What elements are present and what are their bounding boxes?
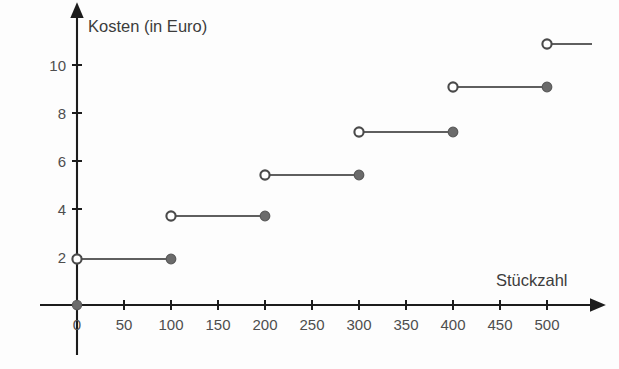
- step-3-open-point: [260, 170, 269, 179]
- y-tick-label-6: 6: [44, 154, 66, 169]
- step-1-closed-point: [166, 254, 176, 264]
- step-6-open-point: [542, 39, 551, 48]
- y-tick-label-4: 4: [44, 202, 66, 217]
- x-axis-title: Stückzahl: [496, 272, 568, 289]
- step-series: [77, 44, 592, 259]
- step-5-open-point: [448, 82, 457, 91]
- x-tick-label-500: 500: [534, 317, 559, 332]
- x-tick-label-100: 100: [158, 317, 183, 332]
- x-tick-label-400: 400: [440, 317, 465, 332]
- x-tick-label-50: 50: [116, 317, 133, 332]
- step-3-closed-point: [354, 170, 364, 180]
- step-4-closed-point: [448, 127, 458, 137]
- x-tick-label-250: 250: [299, 317, 324, 332]
- chart-canvas: [0, 0, 619, 369]
- step-1-open-point: [72, 254, 81, 263]
- y-tick-label-10: 10: [34, 58, 66, 73]
- step-2-closed-point: [260, 211, 270, 221]
- step-2-open-point: [166, 211, 175, 220]
- x-tick-label-200: 200: [252, 317, 277, 332]
- step-function-chart: Kosten (in Euro) Stückzahl 0 50 100 150 …: [0, 0, 619, 369]
- x-tick-label-300: 300: [346, 317, 371, 332]
- origin-point: [72, 300, 81, 309]
- y-axis-title: Kosten (in Euro): [88, 18, 207, 35]
- step-4-open-point: [354, 127, 363, 136]
- x-tick-label-0: 0: [73, 317, 81, 332]
- y-tick-label-8: 8: [44, 106, 66, 121]
- x-tick-label-450: 450: [487, 317, 512, 332]
- y-tick-label-2: 2: [44, 250, 66, 265]
- x-tick-label-350: 350: [393, 317, 418, 332]
- step-5-closed-point: [542, 82, 552, 92]
- x-tick-label-150: 150: [205, 317, 230, 332]
